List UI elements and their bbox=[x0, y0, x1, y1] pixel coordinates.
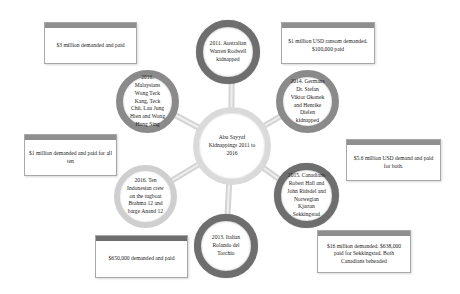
ransom-text: $1 million demanded and paid for all ten bbox=[29, 140, 112, 175]
node-2016-indonesians: 2016. Ten Indonesian crew on the tugboat… bbox=[114, 165, 177, 228]
center-node: Abu Sayyaf Kidnappings 2011 to 2016 bbox=[193, 107, 271, 185]
node-2015-canadians: 2015. Canadians Robert Hall and John Rid… bbox=[274, 163, 339, 228]
node-label: 2014. Germans Dr. Stefan Viktor Okonek a… bbox=[283, 78, 332, 125]
ransom-box-germans: $5.6 million USD demand and paid for bot… bbox=[346, 139, 441, 181]
node-2011-australian: 2011. Australian Warren Rodwell kidnappe… bbox=[196, 20, 260, 84]
ransom-text: $3 million demanded and paid bbox=[49, 28, 132, 63]
ransom-text: $5.6 million USD demand and paid for bot… bbox=[351, 145, 436, 180]
ransom-text: $16 million demanded. $638,000 paid for … bbox=[322, 236, 406, 272]
ransom-box-canadians: $16 million demanded. $638,000 paid for … bbox=[317, 230, 411, 273]
node-label: 2015. Canadians Robert Hall and John Rid… bbox=[281, 172, 332, 219]
ransom-text: $1 million USD ransom demanded. $100,000… bbox=[286, 28, 370, 63]
node-2016-malaysians: 2016. Malaysians Wong Teck Kang, Teck Ch… bbox=[116, 70, 179, 133]
ransom-text: $650,000 demanded and paid bbox=[100, 241, 183, 277]
node-label: 2016. Malaysians Wong Teck Kang, Teck Ch… bbox=[123, 74, 172, 129]
node-label: 2016. Ten Indonesian crew on the tugboat… bbox=[120, 177, 171, 216]
node-2014-germans: 2014. Germans Dr. Stefan Viktor Okonek a… bbox=[276, 70, 339, 133]
ransom-box-italian: $650,000 demanded and paid bbox=[95, 235, 188, 278]
ransom-box-indonesians: $1 million demanded and paid for all ten bbox=[24, 134, 117, 176]
node-2013-italian: 2013. Italian Rolando del Torchio bbox=[194, 214, 258, 278]
ransom-box-malaysians: $3 million demanded and paid bbox=[44, 22, 137, 64]
node-label: 2011. Australian Warren Rodwell kidnappe… bbox=[203, 40, 253, 63]
node-label: 2013. Italian Rolando del Torchio bbox=[201, 234, 251, 257]
center-label: Abu Sayyaf Kidnappings 2011 to 2016 bbox=[199, 134, 265, 157]
ransom-box-rodwell: $1 million USD ransom demanded. $100,000… bbox=[281, 22, 375, 64]
